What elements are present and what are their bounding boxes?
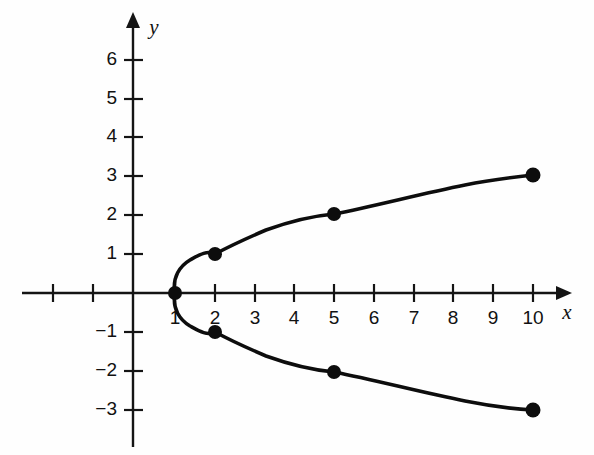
data-point (327, 207, 341, 221)
data-point (327, 365, 341, 379)
y-tick-label: −1 (95, 320, 117, 341)
y-tick-label: 6 (106, 48, 117, 69)
y-axis-label: y (147, 15, 159, 39)
graph-figure: 1 2 3 4 5 6 7 8 9 10 6 5 4 3 2 1 −1 −2 −… (0, 0, 594, 455)
x-tick-label: 7 (409, 307, 420, 328)
curve-lower-branch (174, 293, 533, 410)
x-axis-tick-labels: 1 2 3 4 5 6 7 8 9 10 (170, 307, 544, 328)
y-axis-tick-labels: 6 5 4 3 2 1 −1 −2 −3 (95, 48, 117, 419)
x-tick-label: 3 (250, 307, 261, 328)
y-tick-label: 3 (106, 164, 117, 185)
coordinate-plane: 1 2 3 4 5 6 7 8 9 10 6 5 4 3 2 1 −1 −2 −… (0, 0, 594, 455)
x-tick-label: 4 (289, 307, 300, 328)
y-tick-label: 5 (106, 87, 117, 108)
y-tick-label: 1 (106, 242, 117, 263)
y-axis-arrow-icon (126, 12, 140, 28)
curve-upper-branch (174, 175, 533, 293)
x-tick-label: 6 (369, 307, 380, 328)
x-tick-label: 9 (488, 307, 499, 328)
y-tick-label: −2 (95, 359, 117, 380)
x-tick-label: 2 (210, 307, 221, 328)
y-tick-label: −3 (95, 398, 117, 419)
data-point (526, 168, 541, 183)
y-tick-label: 2 (106, 203, 117, 224)
data-point (526, 403, 541, 418)
x-tick-label: 8 (448, 307, 459, 328)
x-tick-label: 10 (522, 307, 543, 328)
data-point (208, 325, 222, 339)
x-axis-label: x (561, 300, 572, 324)
x-axis-arrow-icon (556, 286, 572, 300)
data-point (168, 286, 182, 300)
data-point (208, 247, 222, 261)
y-tick-label: 4 (106, 125, 117, 146)
x-tick-label: 5 (329, 307, 340, 328)
